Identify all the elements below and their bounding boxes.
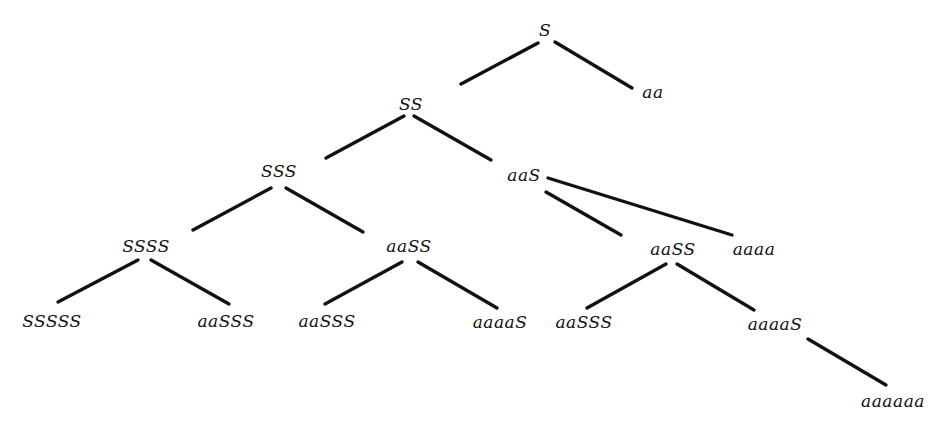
tree-node-label: SSSS (122, 238, 170, 255)
tree-node-label: aaaaS (748, 316, 803, 333)
derivation-tree-diagram: SSSaaSSSaaSSSSSaaSSaaSSaaaaSSSSSaaSSSaaS… (0, 0, 941, 427)
tree-edge-n3-n6 (286, 188, 363, 232)
tree-edge-n7-n14 (677, 264, 754, 310)
tree-edge-n1-n4 (414, 116, 491, 160)
tree-node-label: SSS (261, 163, 297, 180)
tree-edge-n0-n2 (555, 42, 632, 88)
tree-edges (0, 0, 941, 427)
tree-edge-n6-n11 (325, 262, 402, 304)
tree-node-label: aaS (507, 167, 540, 184)
tree-node-label: SS (399, 96, 423, 113)
tree-node-label: S (539, 22, 551, 39)
tree-edge-n1-n3 (326, 116, 404, 158)
tree-node-label: aaaa (733, 241, 776, 258)
tree-edge-n7-n13 (587, 264, 666, 308)
tree-node-label: aa (642, 84, 663, 101)
tree-node-label: aaaaaa (861, 393, 925, 410)
tree-edge-n0-n1 (461, 43, 538, 84)
tree-edge-n4-n8 (548, 178, 732, 235)
tree-node-label: aaaaS (473, 314, 528, 331)
tree-edge-n6-n12 (418, 262, 497, 308)
tree-node-label: aaSS (650, 241, 695, 258)
tree-edge-n14-n15 (808, 339, 886, 385)
tree-edge-n5-n9 (58, 260, 138, 302)
tree-node-label: aaSSS (555, 314, 612, 331)
tree-node-label: aaSSS (197, 313, 254, 330)
tree-node-label: aaSSS (298, 313, 355, 330)
tree-edge-n5-n10 (151, 260, 229, 304)
tree-node-label: SSSSS (22, 313, 82, 330)
tree-node-label: aaSS (386, 238, 431, 255)
tree-edge-n3-n5 (193, 188, 271, 230)
